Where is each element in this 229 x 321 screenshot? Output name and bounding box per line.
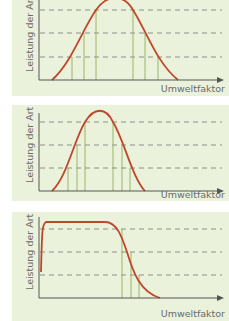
x-axis-label: Umweltfaktor — [161, 189, 225, 200]
x-axis-label: Umweltfaktor — [161, 308, 225, 319]
y-axis-label: Leistung der Art — [24, 0, 35, 72]
chart-plateau — [12, 212, 229, 321]
chart-wide-bell — [12, 0, 229, 96]
y-axis-label: Leistung der Art — [24, 107, 35, 183]
y-axis-label: Leistung der Art — [24, 214, 35, 290]
panel-narrow-tolerance: Leistung der Art Umweltfaktor — [12, 105, 229, 201]
panel-wide-tolerance: Leistung der Art Umweltfaktor — [12, 0, 229, 96]
chart-narrow-bell — [12, 105, 229, 201]
x-axis-label: Umweltfaktor — [161, 83, 225, 94]
panel-plateau-tolerance: Leistung der Art Umweltfaktor — [12, 212, 229, 321]
